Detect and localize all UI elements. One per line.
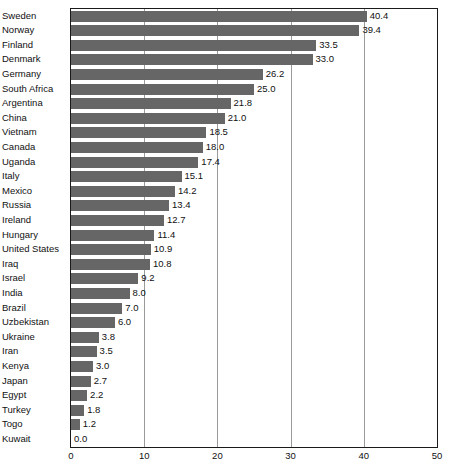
bar-row: 17.4 [71, 156, 437, 170]
category-label: Kenya [0, 359, 65, 373]
category-label: Finland [0, 38, 65, 52]
bar-row: 0.0 [71, 433, 437, 447]
bar-value-label: 13.4 [172, 198, 191, 212]
bar-row: 10.8 [71, 258, 437, 272]
bar-value-label: 40.4 [370, 9, 389, 23]
bar-row: 3.0 [71, 360, 437, 374]
category-label: Mexico [0, 184, 65, 198]
bar-row: 26.2 [71, 68, 437, 82]
bar-value-label: 0.0 [74, 432, 87, 446]
bar [71, 273, 138, 284]
category-label: Italy [0, 169, 65, 183]
bar-row: 3.8 [71, 331, 437, 345]
category-label: Israel [0, 271, 65, 285]
bar [71, 376, 91, 387]
x-tick-label: 50 [432, 450, 443, 461]
bar [71, 69, 263, 80]
bar-value-label: 21.0 [228, 111, 247, 125]
bar-row: 2.2 [71, 389, 437, 403]
bar-row: 2.7 [71, 375, 437, 389]
bar-value-label: 1.8 [87, 403, 100, 417]
bar [71, 259, 150, 270]
category-label: Canada [0, 140, 65, 154]
category-label: Ireland [0, 213, 65, 227]
bar-value-label: 3.0 [96, 359, 109, 373]
bar [71, 142, 203, 153]
bar [71, 113, 225, 124]
category-label: Russia [0, 198, 65, 212]
category-label: Turkey [0, 403, 65, 417]
category-label: Iraq [0, 257, 65, 271]
bar-row: 21.0 [71, 112, 437, 126]
x-tick-label: 30 [285, 450, 296, 461]
bar-value-label: 7.0 [125, 301, 138, 315]
bar [71, 215, 164, 226]
bar-row: 1.8 [71, 404, 437, 418]
bar-value-label: 15.1 [185, 169, 204, 183]
bar-row: 11.4 [71, 229, 437, 243]
bar-rows: 40.439.433.533.026.225.021.821.018.518.0… [71, 9, 437, 447]
bar [71, 11, 367, 22]
plot-area: 40.439.433.533.026.225.021.821.018.518.0… [70, 8, 438, 448]
x-tick-label: 0 [68, 450, 73, 461]
bar-value-label: 3.8 [102, 330, 115, 344]
value-axis-tick-labels: 01020304050 [0, 450, 451, 466]
category-label: United States [0, 242, 65, 256]
bar-value-label: 2.7 [94, 374, 107, 388]
bar-row: 15.1 [71, 170, 437, 184]
category-label: Germany [0, 67, 65, 81]
bar [71, 157, 198, 168]
x-tick-label: 40 [359, 450, 370, 461]
bar-row: 18.0 [71, 141, 437, 155]
bar-row: 18.5 [71, 126, 437, 140]
bar-row: 10.9 [71, 243, 437, 257]
bar [71, 244, 151, 255]
category-label: Uzbekistan [0, 315, 65, 329]
category-label: Brazil [0, 301, 65, 315]
bar-chart: SwedenNorwayFinlandDenmarkGermanySouth A… [0, 0, 451, 473]
category-label: South Africa [0, 82, 65, 96]
category-label: Togo [0, 417, 65, 431]
category-label: Ukraine [0, 330, 65, 344]
bar-row: 14.2 [71, 185, 437, 199]
bar-value-label: 21.8 [234, 96, 253, 110]
bar [71, 230, 154, 241]
bar-row: 9.2 [71, 272, 437, 286]
bar [71, 84, 254, 95]
category-label: China [0, 111, 65, 125]
bar-row: 7.0 [71, 302, 437, 316]
bar-value-label: 10.8 [153, 257, 172, 271]
category-label: Vietnam [0, 125, 65, 139]
bar-row: 3.5 [71, 345, 437, 359]
bar-value-label: 18.5 [209, 125, 228, 139]
category-label: Japan [0, 374, 65, 388]
bar-row: 1.2 [71, 418, 437, 432]
bar-value-label: 14.2 [178, 184, 197, 198]
category-label: Argentina [0, 96, 65, 110]
category-label: India [0, 286, 65, 300]
bar-value-label: 25.0 [257, 82, 276, 96]
bar [71, 127, 206, 138]
category-label: Uganda [0, 155, 65, 169]
bar [71, 317, 115, 328]
bar [71, 419, 80, 430]
bar-value-label: 12.7 [167, 213, 186, 227]
bar [71, 98, 231, 109]
bar [71, 346, 97, 357]
bar-value-label: 1.2 [83, 417, 96, 431]
category-label: Kuwait [0, 432, 65, 446]
bar-row: 33.0 [71, 53, 437, 67]
bar-value-label: 2.2 [90, 388, 103, 402]
bar-row: 39.4 [71, 24, 437, 38]
category-label: Norway [0, 23, 65, 37]
bar-row: 33.5 [71, 39, 437, 53]
category-label: Egypt [0, 388, 65, 402]
category-label: Denmark [0, 52, 65, 66]
bar-value-label: 18.0 [206, 140, 225, 154]
bar-row: 12.7 [71, 214, 437, 228]
bar [71, 54, 313, 65]
bar-row: 21.8 [71, 97, 437, 111]
bar-row: 13.4 [71, 199, 437, 213]
bar [71, 171, 182, 182]
bar [71, 25, 359, 36]
